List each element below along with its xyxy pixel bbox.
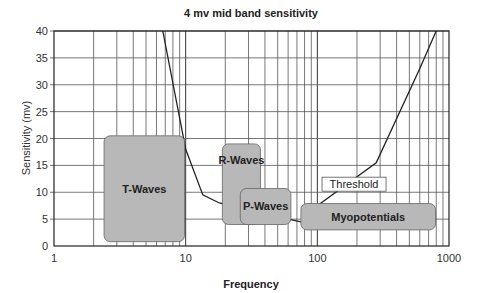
x-tick-label: 100 [308,252,326,264]
chart: 4 mv mid band sensitivity T-WavesR-Waves… [0,0,481,293]
threshold-label-group: Threshold [322,177,386,191]
x-tick-labels: 1101001000 [51,252,461,264]
y-tick-label: 15 [36,159,48,171]
t-waves-region: T-Waves [104,136,184,242]
r-waves-label: R-Waves [218,154,264,166]
p-waves-label: P-Waves [243,200,288,212]
y-tick-labels: 0510152025303540 [36,25,48,252]
y-tick-label: 20 [36,133,48,145]
myopotentials-region: Myopotentials [301,204,436,230]
y-tick-label: 0 [42,240,48,252]
annotation-boxes: T-WavesR-WavesP-WavesMyopotentialsThresh… [104,136,435,242]
curve-layer [163,31,436,222]
y-tick-label: 30 [36,79,48,91]
x-tick-label: 1000 [437,252,461,264]
x-tick-label: 1 [51,252,57,264]
y-tick-label: 10 [36,186,48,198]
chart-title: 4 mv mid band sensitivity [184,7,319,19]
y-axis-label: Sensitivity (mv) [20,101,32,176]
t-waves-label: T-Waves [122,183,166,195]
y-tick-label: 40 [36,25,48,37]
x-tick-label: 10 [180,252,192,264]
p-waves-region: P-Waves [240,188,291,224]
x-axis-label: Frequency [223,278,280,290]
myopotentials-label: Myopotentials [331,211,405,223]
threshold-label: Threshold [330,178,379,190]
y-tick-label: 25 [36,106,48,118]
threshold-curve [163,31,436,222]
y-tick-label: 35 [36,52,48,64]
y-tick-label: 5 [42,213,48,225]
